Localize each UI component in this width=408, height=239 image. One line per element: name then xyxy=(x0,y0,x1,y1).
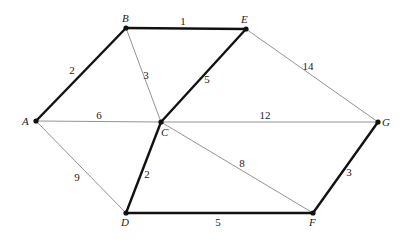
node-label-D: D xyxy=(120,216,129,228)
edge-AD xyxy=(36,121,126,213)
edge-AC xyxy=(36,121,161,122)
edge-weight-BC: 3 xyxy=(143,69,149,81)
edge-BE xyxy=(126,28,246,29)
graph-diagram: 21351461292853 ABECGDF xyxy=(0,0,408,239)
edge-weight-DF: 5 xyxy=(215,216,221,228)
edge-weight-CF: 8 xyxy=(239,157,245,169)
node-E xyxy=(243,26,248,31)
edge-weight-AC: 6 xyxy=(96,109,102,121)
node-A xyxy=(33,118,38,123)
edge-weight-CD: 2 xyxy=(144,168,150,180)
edge-weight-BE: 1 xyxy=(180,15,186,27)
node-label-A: A xyxy=(21,115,29,127)
nodes-layer xyxy=(33,25,380,215)
node-label-F: F xyxy=(308,216,316,228)
edge-AB xyxy=(36,28,126,121)
edges-layer xyxy=(36,28,378,213)
node-label-G: G xyxy=(382,116,390,128)
node-label-B: B xyxy=(122,12,129,24)
node-D xyxy=(123,210,128,215)
edge-CF xyxy=(161,122,313,213)
edge-weight-CG: 12 xyxy=(260,109,271,121)
node-G xyxy=(375,119,380,124)
node-labels-layer: ABECGDF xyxy=(21,12,390,228)
edge-weight-EC: 5 xyxy=(204,73,210,85)
edge-weight-AB: 2 xyxy=(69,64,75,76)
node-C xyxy=(158,119,163,124)
node-B xyxy=(123,25,128,30)
node-F xyxy=(310,210,315,215)
edge-weight-AD: 9 xyxy=(74,171,80,183)
node-label-C: C xyxy=(161,126,169,138)
node-label-E: E xyxy=(240,13,248,25)
edge-weight-FG: 3 xyxy=(346,166,352,178)
edge-weight-EG: 14 xyxy=(303,60,315,72)
